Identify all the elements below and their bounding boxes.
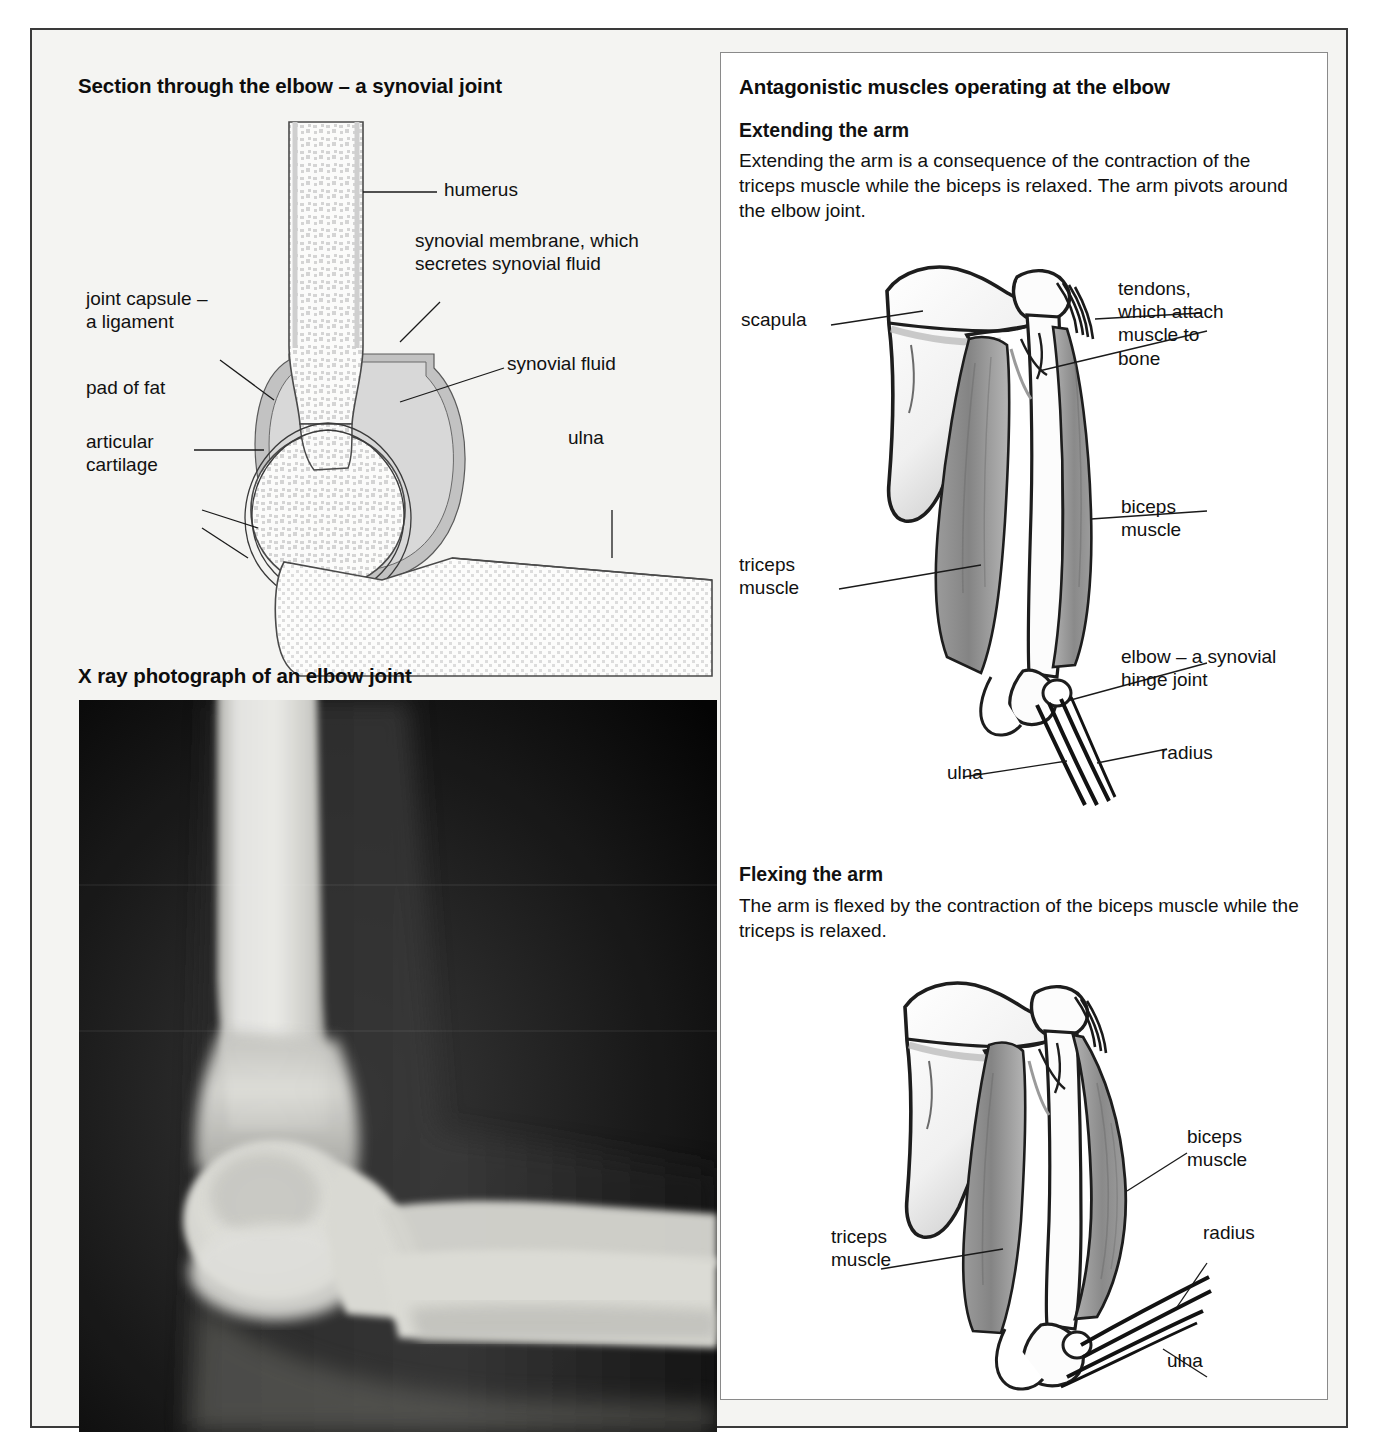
- xray-title: X ray photograph of an elbow joint: [78, 664, 412, 688]
- label-articular-cartilage: articular cartilage: [86, 430, 158, 476]
- label-scapula: scapula: [741, 308, 807, 331]
- left-column: Section through the elbow – a synovial j…: [52, 52, 712, 1408]
- label-biceps-flexing-text: biceps muscle: [1187, 1125, 1247, 1171]
- antagonistic-title: Antagonistic muscles operating at the el…: [739, 75, 1170, 99]
- extending-text: Extending the arm is a consequence of th…: [739, 148, 1307, 223]
- label-elbow-synovial-hinge: elbow – a synovial hinge joint: [1121, 645, 1276, 691]
- label-radius-extending: radius: [1161, 741, 1213, 764]
- label-ulna-flexing: ulna: [1167, 1349, 1203, 1372]
- flexing-heading: Flexing the arm: [739, 863, 883, 886]
- label-triceps-extending: triceps muscle: [739, 553, 799, 599]
- figure-frame: Section through the elbow – a synovial j…: [30, 28, 1348, 1428]
- flexing-arm-diagram: [891, 973, 1211, 1393]
- section-title: Section through the elbow – a synovial j…: [78, 74, 502, 98]
- label-ulna-extending: ulna: [947, 761, 983, 784]
- label-biceps-extending: biceps muscle: [1121, 495, 1181, 541]
- label-synovial-membrane: synovial membrane, which secretes synovi…: [415, 229, 639, 275]
- antagonistic-muscles-panel: Antagonistic muscles operating at the el…: [720, 52, 1328, 1400]
- label-tendons: tendons, which attach muscle to bone: [1118, 277, 1224, 370]
- label-triceps-flexing: triceps muscle: [831, 1225, 891, 1271]
- xray-photograph: [79, 700, 717, 1432]
- label-ulna-section: ulna: [568, 426, 604, 449]
- extending-heading: Extending the arm: [739, 119, 909, 142]
- label-radius-flexing: radius: [1203, 1221, 1255, 1244]
- label-joint-capsule: joint capsule – a ligament: [86, 287, 207, 333]
- label-humerus: humerus: [444, 178, 518, 201]
- label-pad-of-fat: pad of fat: [86, 376, 165, 399]
- label-synovial-fluid: synovial fluid: [507, 352, 616, 375]
- flexing-text: The arm is flexed by the contraction of …: [739, 893, 1299, 943]
